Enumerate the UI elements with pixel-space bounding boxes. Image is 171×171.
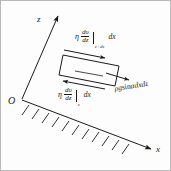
fraction-denominator: dz <box>64 94 72 102</box>
x-axis-label: x <box>156 145 160 154</box>
evaluation-subscript: z+dz <box>95 44 105 49</box>
fraction-numerator: dυ <box>81 29 90 36</box>
fluid-element-rectangle <box>59 55 119 86</box>
x-axis <box>22 100 151 149</box>
z-axis <box>22 16 58 99</box>
evaluation-bar <box>76 90 77 102</box>
inclined-hatched-surface <box>22 105 129 154</box>
z-axis-label: z <box>37 15 41 24</box>
derivative-fraction: dυ dz <box>64 87 73 103</box>
eta-symbol: η <box>58 91 62 99</box>
origin-label: O <box>8 96 15 106</box>
eta-symbol: η <box>75 33 79 41</box>
evaluation-subscript: z <box>78 102 80 107</box>
derivative-fraction: dυ dz <box>81 29 90 45</box>
figure-canvas: z x O η dυ dz z+dz dx η dυ dz z dx ρgsin… <box>0 0 171 171</box>
differential-dx: dx <box>84 91 91 99</box>
fraction-denominator: dz <box>81 36 89 44</box>
bottom-stress-label: η dυ dz z dx <box>58 87 91 103</box>
evaluation-bar <box>93 32 94 44</box>
fraction-numerator: dυ <box>64 87 73 94</box>
differential-dx: dx <box>108 33 115 41</box>
top-stress-label: η dυ dz z+dz dx <box>75 29 116 45</box>
